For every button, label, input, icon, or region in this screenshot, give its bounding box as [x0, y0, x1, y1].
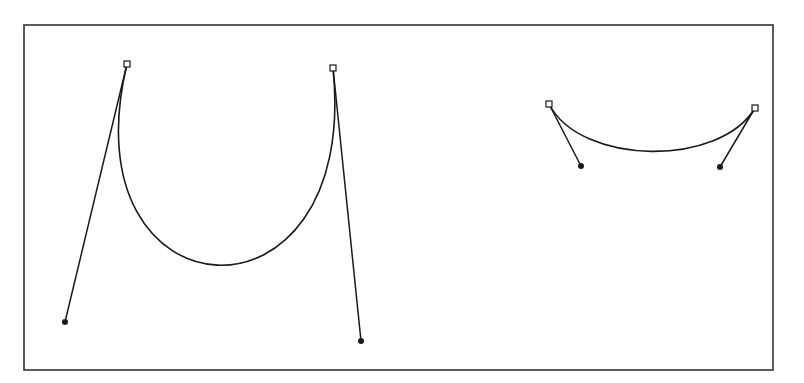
- handle-line-end: [333, 68, 361, 341]
- anchor-point-end[interactable]: [330, 65, 336, 71]
- bezier-curve: [118, 64, 334, 265]
- handle-line-start: [65, 64, 127, 322]
- anchor-point-start[interactable]: [124, 61, 130, 67]
- handle-line-start: [549, 104, 581, 166]
- anchor-point-end[interactable]: [752, 105, 758, 111]
- anchor-point-start[interactable]: [546, 101, 552, 107]
- control-point-start-handle[interactable]: [578, 163, 584, 169]
- bezier-diagram-canvas: [0, 0, 804, 383]
- control-point-end-handle[interactable]: [358, 338, 364, 344]
- bezier-curve: [549, 104, 755, 151]
- control-point-start-handle[interactable]: [62, 319, 68, 325]
- curve-long-handles: [62, 61, 364, 344]
- diagram-frame: [24, 25, 773, 370]
- control-point-end-handle[interactable]: [717, 164, 723, 170]
- handle-line-end: [720, 108, 755, 167]
- curve-short-handles: [546, 101, 758, 170]
